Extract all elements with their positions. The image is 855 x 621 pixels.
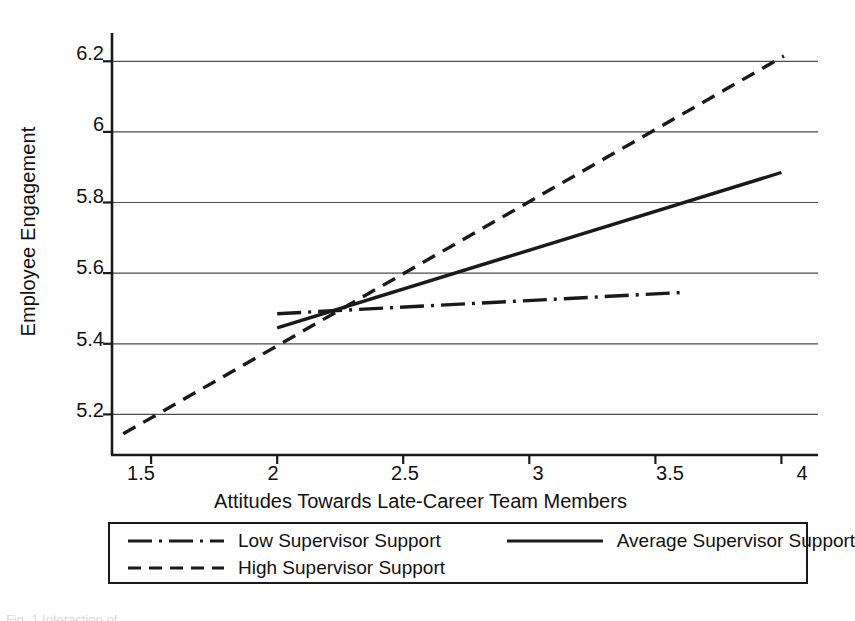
y-tick-label-5.6: 5.6 (76, 256, 104, 279)
x-tick-label-2: 2 (267, 462, 278, 485)
legend-item-average-supervisor-support[interactable]: Average Supervisor Support (507, 527, 855, 554)
legend-item-low-supervisor-support[interactable]: Low Supervisor Support (128, 527, 441, 554)
y-axis-title: Employee Engagement (17, 82, 40, 382)
x-tick-label-4: 4 (796, 462, 807, 485)
x-tick-label-1.5: 1.5 (127, 462, 155, 485)
y-tick-labels: 6.2 6 5.8 5.6 5.4 5.2 (42, 0, 104, 621)
series-line-average-supervisor-support (277, 173, 781, 328)
y-tick-label-5.4: 5.4 (76, 328, 104, 351)
figure-caption-sliver: Fig. 1 Interaction of (6, 612, 117, 621)
legend-swatch-dashed-line (128, 561, 224, 575)
legend-swatch-solid-line (507, 534, 603, 548)
x-tick-label-2.5: 2.5 (391, 462, 419, 485)
x-tick-label-3.5: 3.5 (656, 462, 684, 485)
y-tick-label-6: 6 (93, 113, 104, 136)
legend-label-low-supervisor-support: Low Supervisor Support (238, 530, 441, 552)
x-tick-label-3: 3 (532, 462, 543, 485)
series-line-low-supervisor-support (277, 293, 680, 314)
y-tick-label-5.2: 5.2 (76, 399, 104, 422)
x-tick-labels: 1.5 2 2.5 3 3.5 4 (0, 462, 841, 490)
y-axis-ticks (103, 61, 112, 414)
series-line-high-supervisor-support (123, 56, 784, 434)
legend-row-2: High Supervisor Support (110, 554, 806, 581)
y-tick-label-5.8: 5.8 (76, 185, 104, 208)
data-series (123, 56, 784, 434)
legend: Low Supervisor Support Average Superviso… (108, 522, 808, 584)
legend-row-1: Low Supervisor Support Average Superviso… (110, 527, 806, 554)
legend-label-high-supervisor-support: High Supervisor Support (238, 557, 445, 579)
legend-label-average-supervisor-support: Average Supervisor Support (617, 530, 855, 552)
x-axis-title: Attitudes Towards Late-Career Team Membe… (0, 490, 841, 513)
y-tick-label-6.2: 6.2 (76, 42, 104, 65)
legend-item-high-supervisor-support[interactable]: High Supervisor Support (128, 554, 445, 581)
legend-swatch-dash-dot-line (128, 534, 224, 548)
